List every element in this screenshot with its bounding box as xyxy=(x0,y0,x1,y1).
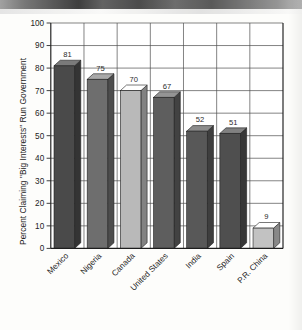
bar xyxy=(54,60,81,248)
bar-front-face xyxy=(154,97,175,248)
bar-chart: 0102030405060708090100 8175706752519 Mex… xyxy=(0,0,302,330)
bar-front-face xyxy=(120,91,141,249)
y-tick-label: 50 xyxy=(35,132,45,141)
x-tick-label: Spain xyxy=(215,251,236,272)
bar-value-label: 9 xyxy=(264,212,268,221)
x-tick-labels: MexicoNigeriaCanadaUnited StatesIndiaSpa… xyxy=(46,251,270,292)
bar-front-face xyxy=(220,133,241,248)
y-tick-label: 70 xyxy=(35,87,45,96)
y-tick-label: 60 xyxy=(35,109,45,118)
bar-value-label: 75 xyxy=(96,64,104,73)
bar xyxy=(154,92,181,249)
bar-side-face xyxy=(240,128,246,249)
y-axis-title: Percent Claiming "Big Interests" Run Gov… xyxy=(18,57,28,245)
bar-value-label: 51 xyxy=(229,118,237,127)
x-tick-label: India xyxy=(184,251,203,270)
bar-side-face xyxy=(141,85,147,248)
y-tick-label: 100 xyxy=(31,19,45,28)
bar xyxy=(120,85,147,248)
bar-value-label: 52 xyxy=(196,115,204,124)
x-tick-label: Mexico xyxy=(46,251,71,276)
bar-side-face xyxy=(207,126,213,249)
y-tick-label: 90 xyxy=(35,41,45,50)
bar-value-label: 81 xyxy=(63,50,71,59)
bar xyxy=(220,128,247,249)
bar xyxy=(87,74,114,249)
y-tick-label: 20 xyxy=(35,199,45,208)
x-tick-label: P.R. China xyxy=(236,251,270,285)
y-tick-label: 0 xyxy=(40,244,45,253)
y-tick-label: 40 xyxy=(35,154,45,163)
bar xyxy=(253,223,280,249)
bar-front-face xyxy=(187,131,208,248)
bar-value-label: 70 xyxy=(130,75,138,84)
bar-value-label: 67 xyxy=(163,82,171,91)
bar-side-face xyxy=(75,60,81,248)
x-tick-label: Nigeria xyxy=(79,251,104,276)
bar-front-face xyxy=(253,228,274,248)
bar-side-face xyxy=(174,92,180,249)
y-tick-label: 80 xyxy=(35,64,45,73)
bar xyxy=(187,126,214,249)
y-tick-labels: 0102030405060708090100 xyxy=(31,19,45,253)
y-tick-label: 30 xyxy=(35,177,45,186)
bar-front-face xyxy=(54,66,75,249)
y-tick-label: 10 xyxy=(35,222,45,231)
bar-front-face xyxy=(87,79,108,248)
bar-side-face xyxy=(108,74,114,249)
x-tick-label: Canada xyxy=(110,251,137,278)
